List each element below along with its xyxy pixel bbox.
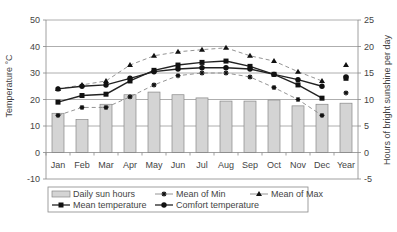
- right-axis-label: Hours of bright sunshine per day: [382, 34, 392, 165]
- sun-hours-bar: [124, 95, 136, 153]
- sun-hours-bars: [52, 92, 352, 152]
- y-tick-label: 50: [30, 15, 40, 25]
- circle-marker: [103, 82, 108, 87]
- sun-hours-bar: [52, 113, 64, 152]
- x-tick-label: Oct: [267, 160, 282, 170]
- sun-hours-bar: [76, 120, 88, 153]
- y-tick-label: 10: [30, 121, 40, 131]
- legend-label: Mean of Min: [176, 189, 226, 199]
- circle-marker: [175, 66, 180, 71]
- legend: Daily sun hoursMean of MinMean of MaxMea…: [48, 187, 324, 212]
- star-marker: [344, 90, 349, 95]
- star-marker: [200, 71, 205, 76]
- sun-hours-bar: [220, 101, 232, 152]
- star-marker: [152, 82, 157, 87]
- square-marker: [224, 59, 229, 64]
- y2-tick-label: -5: [364, 174, 372, 184]
- y-tick-label: -10: [27, 174, 40, 184]
- triangle-marker: [199, 47, 205, 52]
- circle-marker: [79, 84, 84, 89]
- star-marker: [272, 85, 277, 90]
- x-tick-label: Jul: [196, 160, 208, 170]
- sun-hours-bar: [316, 104, 328, 152]
- x-tick-label: Sep: [242, 160, 258, 170]
- star-marker: [104, 105, 109, 110]
- y2-tick-label: 5: [364, 121, 369, 131]
- square-marker: [80, 93, 85, 98]
- circle-marker: [295, 77, 300, 82]
- circle-marker: [271, 72, 276, 77]
- square-marker: [296, 82, 301, 87]
- series-comfort-temperature: [55, 65, 348, 92]
- square-marker: [104, 92, 109, 97]
- x-tick-label: Jun: [171, 160, 186, 170]
- sun-hours-bar: [340, 103, 352, 152]
- y-tick-label: 0: [35, 148, 40, 158]
- circle-marker: [343, 74, 348, 79]
- y2-tick-label: 15: [364, 68, 374, 78]
- triangle-marker: [295, 69, 301, 74]
- series-line: [58, 61, 322, 102]
- x-tick-label: Mar: [98, 160, 114, 170]
- sun-hours-bar: [244, 101, 256, 152]
- star-marker: [80, 105, 85, 110]
- sun-hours-bar: [148, 92, 160, 152]
- square-marker: [320, 96, 325, 101]
- triangle-marker: [103, 78, 109, 83]
- triangle-marker: [223, 45, 229, 50]
- circle-marker: [55, 86, 60, 91]
- x-tick-label: Jan: [51, 160, 66, 170]
- circle-marker: [151, 69, 156, 74]
- star-marker: [56, 113, 61, 118]
- star-marker: [162, 192, 167, 197]
- x-tick-label: Nov: [290, 160, 307, 170]
- legend-label: Comfort temperature: [176, 200, 259, 210]
- y-tick-label: 30: [30, 68, 40, 78]
- x-tick-label: Apr: [123, 160, 137, 170]
- climate-chart: 50403020100-102520151050-5JanFebMarAprMa…: [0, 0, 397, 232]
- y2-tick-label: 25: [364, 15, 374, 25]
- star-marker: [320, 113, 325, 118]
- star-marker: [248, 74, 253, 79]
- y2-tick-label: 10: [364, 95, 374, 105]
- x-tick-label: Year: [337, 160, 355, 170]
- x-tick-label: Feb: [74, 160, 90, 170]
- y-tick-label: 40: [30, 42, 40, 52]
- sun-hours-bar: [292, 106, 304, 153]
- star-marker: [296, 97, 301, 102]
- circle-marker: [199, 65, 204, 70]
- y2-tick-label: 0: [364, 148, 369, 158]
- circle-marker: [319, 84, 324, 89]
- triangle-marker: [271, 58, 277, 63]
- star-marker: [224, 71, 229, 76]
- y2-tick-label: 20: [364, 42, 374, 52]
- circle-marker: [161, 202, 166, 207]
- sun-hours-bar: [172, 95, 184, 153]
- circle-marker: [127, 76, 132, 81]
- legend-label: Mean of Max: [271, 189, 324, 199]
- square-marker: [59, 203, 64, 208]
- star-marker: [128, 94, 133, 99]
- triangle-marker: [343, 62, 349, 67]
- square-marker: [56, 100, 61, 105]
- legend-label: Daily sun hours: [73, 189, 136, 199]
- legend-label: Mean temperature: [73, 200, 147, 210]
- sun-hours-bar: [196, 98, 208, 153]
- x-tick-label: May: [145, 160, 163, 170]
- x-tick-label: Dec: [314, 160, 331, 170]
- sun-hours-bar: [100, 104, 112, 152]
- square-marker: [200, 60, 205, 65]
- circle-marker: [247, 66, 252, 71]
- circle-marker: [223, 65, 228, 70]
- x-tick-label: Aug: [218, 160, 234, 170]
- sun-hours-bar: [268, 100, 280, 152]
- legend-bar-swatch: [52, 191, 70, 197]
- left-axis-label: Temperature °C: [4, 54, 14, 118]
- star-marker: [176, 73, 181, 78]
- y-tick-label: 20: [30, 95, 40, 105]
